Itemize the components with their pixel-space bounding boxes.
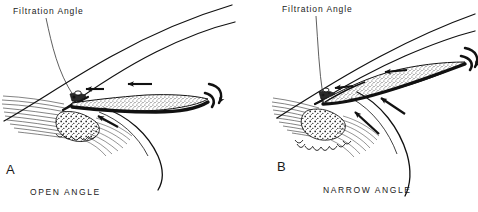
panel-a-illustration bbox=[0, 0, 239, 212]
aqueous-flow-arrow-posterior bbox=[98, 116, 118, 127]
filtration-angle-label: Filtration Angle bbox=[13, 7, 84, 16]
lens-capsule-curve bbox=[104, 108, 162, 190]
lens-capsule-inner bbox=[99, 112, 148, 156]
figure-anterior-chamber-angles: Filtration Angle A OPEN ANGLE bbox=[0, 0, 478, 212]
panel-b-illustration bbox=[239, 0, 478, 212]
pupillary-block-arrow bbox=[355, 112, 379, 134]
iris-stroma-stippled bbox=[323, 62, 465, 104]
filtration-angle-label: Filtration Angle bbox=[282, 5, 353, 14]
panel-caption-open-angle: OPEN ANGLE bbox=[30, 188, 101, 197]
ciliary-body bbox=[56, 111, 99, 141]
panel-letter-a: A bbox=[6, 163, 15, 176]
ciliary-processes bbox=[295, 140, 351, 151]
panel-narrow-angle: Filtration Angle B NARROW ANGLE bbox=[239, 0, 478, 212]
panel-letter-b: B bbox=[277, 160, 286, 173]
filtration-angle-leader-line bbox=[316, 16, 323, 96]
pupil-margin-curved-arrow bbox=[209, 84, 221, 103]
filtration-angle-leader-line bbox=[46, 18, 73, 95]
pupillary-block-arrow-2 bbox=[381, 98, 405, 114]
schlemms-canal bbox=[75, 91, 82, 95]
panel-open-angle: Filtration Angle A OPEN ANGLE bbox=[0, 0, 239, 212]
panel-caption-narrow-angle: NARROW ANGLE bbox=[323, 186, 412, 195]
schlemms-canal bbox=[323, 88, 329, 92]
